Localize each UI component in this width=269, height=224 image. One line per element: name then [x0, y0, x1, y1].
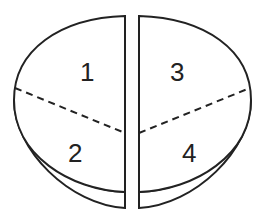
section-label-2: 2 — [68, 138, 82, 168]
section-label-4: 4 — [182, 138, 196, 168]
section-label-1: 1 — [80, 57, 94, 87]
section-label-3: 3 — [170, 57, 184, 87]
split-tablet-figure: 1 2 3 4 — [0, 0, 269, 224]
tablet-diagram: 1 2 3 4 — [0, 0, 269, 224]
